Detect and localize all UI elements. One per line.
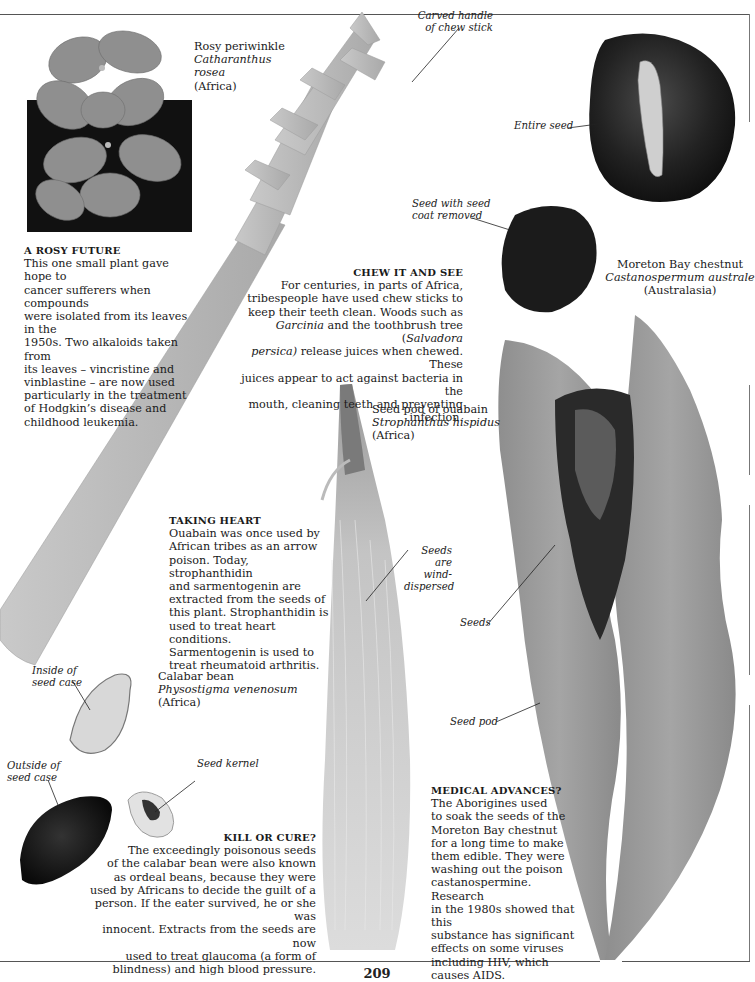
label-line: Seeds are bbox=[404, 545, 452, 569]
body-line: causes AIDS. bbox=[431, 969, 581, 982]
chestnut-latin: Castanospermum australe bbox=[605, 271, 755, 284]
body-line: cancer sufferers when compounds bbox=[24, 284, 199, 310]
body-line: innocent. Extracts from the seeds are no… bbox=[78, 923, 316, 949]
taking-heart-heading: TAKING HEART bbox=[169, 514, 329, 527]
body-line: for a long time to make bbox=[431, 837, 581, 850]
body-line: were isolated from its leaves in the bbox=[24, 310, 199, 336]
label-line: seed case bbox=[7, 772, 60, 784]
kill-or-cure-heading: KILL OR CURE? bbox=[78, 831, 316, 844]
seed-pod-label: Seed pod bbox=[450, 716, 498, 728]
body-line: including HIV, which bbox=[431, 956, 581, 969]
periwinkle-latin-2: rosea bbox=[194, 66, 314, 79]
label-line: wind- bbox=[404, 569, 452, 581]
outside-seed-case-label: Outside of seed case bbox=[7, 760, 60, 784]
body-line: blindness) and high blood pressure. bbox=[78, 963, 316, 976]
label-line: of chew stick bbox=[400, 22, 493, 34]
body-line: Garcinia and the toothbrush tree (Salvad… bbox=[225, 319, 463, 345]
entire-seed-label: Entire seed bbox=[514, 120, 573, 132]
italic-term: Salvadora bbox=[406, 332, 463, 345]
label-line: coat removed bbox=[412, 210, 490, 222]
italic-term: persica) bbox=[251, 345, 297, 358]
body-line: used to treat heart conditions. bbox=[169, 620, 329, 646]
body-line: person. If the eater survived, he or she… bbox=[78, 897, 316, 923]
body-line: 1950s. Two alkaloids taken from bbox=[24, 336, 199, 362]
calabar-common-name: Calabar bean bbox=[158, 670, 308, 683]
body-line: in the 1980s showed that this bbox=[431, 903, 581, 929]
periwinkle-common-name: Rosy periwinkle bbox=[194, 40, 314, 53]
body-line: used by Africans to decide the guilt of … bbox=[78, 884, 316, 897]
ouabain-caption: Seed pod of ouabain Strophanthus hispidu… bbox=[372, 403, 502, 443]
body-line: as ordeal beans, because they were bbox=[78, 871, 316, 884]
seeds-label: Seeds bbox=[460, 617, 491, 629]
body-line: For centuries, in parts of Africa, bbox=[225, 279, 463, 292]
body-line: effects on some viruses bbox=[431, 942, 581, 955]
chestnut-caption: Moreton Bay chestnut Castanospermum aust… bbox=[605, 258, 755, 298]
medical-advances-heading: MEDICAL ADVANCES? bbox=[431, 784, 581, 797]
chestnut-peeled-seed bbox=[502, 206, 597, 312]
body-line: vinblastine – are now used bbox=[24, 376, 199, 389]
periwinkle-region: (Africa) bbox=[194, 80, 314, 93]
body-line: castanospermine. Research bbox=[431, 876, 581, 902]
chestnut-entire-seed bbox=[589, 34, 735, 202]
kill-or-cure-box: KILL OR CURE? The exceedingly poisonous … bbox=[78, 831, 316, 976]
label-line: Seed with seed bbox=[412, 198, 490, 210]
body-line: and sarmentogenin are bbox=[169, 580, 329, 593]
periwinkle-latin-1: Catharanthus bbox=[194, 53, 314, 66]
body-line: poison. Today, strophanthidin bbox=[169, 554, 329, 580]
body-line: juices appear to act against bacteria in… bbox=[225, 372, 463, 398]
body-line: of the calabar bean were also known bbox=[78, 857, 316, 870]
body-line: tribespeople have used chew sticks to bbox=[225, 292, 463, 305]
seed-coat-removed-label: Seed with seed coat removed bbox=[412, 198, 490, 222]
chew-it-heading: CHEW IT AND SEE bbox=[225, 266, 463, 279]
label-line: Carved handle bbox=[400, 10, 493, 22]
seed-kernel-label: Seed kernel bbox=[197, 758, 259, 770]
body-text: release juices when chewed. These bbox=[301, 345, 463, 371]
label-line: Inside of bbox=[32, 665, 82, 677]
body-line: This one small plant gave hope to bbox=[24, 257, 199, 283]
calabar-caption: Calabar bean Physostigma venenosum (Afri… bbox=[158, 670, 308, 710]
taking-heart-box: TAKING HEART Ouabain was once used by Af… bbox=[169, 514, 329, 672]
rosy-future-heading: A ROSY FUTURE bbox=[24, 244, 199, 257]
inside-seed-case-label: Inside of seed case bbox=[32, 665, 82, 689]
ouabain-common-name: Seed pod of ouabain bbox=[372, 403, 502, 416]
body-line: its leaves – vincristine and bbox=[24, 363, 199, 376]
body-line: Ouabain was once used by bbox=[169, 527, 329, 540]
body-line: substance has significant bbox=[431, 929, 581, 942]
body-line: of Hodgkin’s disease and bbox=[24, 402, 199, 415]
label-line: Outside of bbox=[7, 760, 60, 772]
italic-term: Garcinia bbox=[276, 319, 324, 332]
body-line: Moreton Bay chestnut bbox=[431, 824, 581, 837]
wind-dispersed-label: Seeds are wind- dispersed bbox=[404, 545, 452, 593]
body-line: The Aborigines used bbox=[431, 797, 581, 810]
body-line: childhood leukemia. bbox=[24, 416, 199, 429]
body-line: African tribes as an arrow bbox=[169, 540, 329, 553]
label-line: seed case bbox=[32, 677, 82, 689]
ouabain-latin: Strophanthus hispidus bbox=[372, 416, 502, 429]
body-line: extracted from the seeds of bbox=[169, 593, 329, 606]
chew-it-box: CHEW IT AND SEE For centuries, in parts … bbox=[225, 266, 463, 424]
chestnut-region: (Australasia) bbox=[605, 284, 755, 297]
medical-advances-box: MEDICAL ADVANCES? The Aborigines used to… bbox=[431, 784, 581, 982]
periwinkle-photo bbox=[27, 24, 192, 232]
body-line: to soak the seeds of the bbox=[431, 810, 581, 823]
ouabain-region: (Africa) bbox=[372, 429, 502, 442]
body-line: persica) release juices when chewed. The… bbox=[225, 345, 463, 371]
rosy-future-box: A ROSY FUTURE This one small plant gave … bbox=[24, 244, 199, 429]
body-line: them edible. They were bbox=[431, 850, 581, 863]
body-line: keep their teeth clean. Woods such as bbox=[225, 306, 463, 319]
carved-handle-label: Carved handle of chew stick bbox=[400, 10, 493, 34]
body-line: this plant. Strophanthidin is bbox=[169, 606, 329, 619]
calabar-region: (Africa) bbox=[158, 696, 308, 709]
body-line: used to treat glaucoma (a form of bbox=[78, 950, 316, 963]
periwinkle-caption: Rosy periwinkle Catharanthus rosea (Afri… bbox=[194, 40, 314, 93]
chestnut-common-name: Moreton Bay chestnut bbox=[605, 258, 755, 271]
body-line: Sarmentogenin is used to bbox=[169, 646, 329, 659]
body-line: particularly in the treatment bbox=[24, 389, 199, 402]
label-line: dispersed bbox=[404, 581, 452, 593]
ouabain-seed-pod bbox=[322, 384, 410, 950]
body-line: The exceedingly poisonous seeds bbox=[78, 844, 316, 857]
body-line: washing out the poison bbox=[431, 863, 581, 876]
calabar-latin: Physostigma venenosum bbox=[158, 683, 308, 696]
